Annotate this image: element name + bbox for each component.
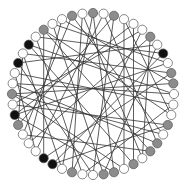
node-ring [7,8,178,179]
graph-node-black [24,40,33,49]
graph-node-white [159,130,168,139]
graph-node-gray [7,89,16,98]
graph-node-white [18,130,27,139]
graph-edge [12,94,163,135]
graph-node-white [153,40,162,49]
graph-node-gray [146,32,155,41]
graph-edge [72,14,82,173]
graph-node-gray [167,68,176,77]
graph-node-gray [67,11,76,20]
graph-node-white [167,110,176,119]
graph-node-gray [99,170,108,179]
graph-node-white [169,100,178,109]
graph-node-white [138,154,147,163]
graph-node-white [78,170,87,179]
circular-network-graph [0,0,186,187]
graph-node-white [57,164,66,173]
graph-node-black [159,49,168,58]
graph-node-white [18,49,27,58]
graph-node-gray [39,25,48,34]
graph-node-white [138,25,147,34]
graph-node-white [129,19,138,28]
graph-node-black [39,154,48,163]
graph-edge [15,63,168,115]
graph-node-gray [109,168,118,177]
graph-node-white [57,15,66,24]
graph-node-gray [14,120,23,129]
graph-edge [23,54,62,169]
graph-node-gray [67,168,76,177]
graph-node-white [24,139,33,148]
graph-node-gray [109,11,118,20]
graph-node-white [8,100,17,109]
graph-node-white [48,19,57,28]
graph-node-gray [146,147,155,156]
graph-node-white [8,79,17,88]
graph-node-gray [129,160,138,169]
graph-node-black [10,110,19,119]
graph-node-gray [88,8,97,17]
graph-node-white [99,9,108,18]
graph-node-gray [153,139,162,148]
graph-node-white [31,32,40,41]
graph-node-white [10,68,19,77]
graph-node-white [78,9,87,18]
graph-node-white [119,164,128,173]
graph-node-white [163,58,172,67]
graph-node-white [169,89,178,98]
graph-node-gray [163,120,172,129]
graph-node-white [88,170,97,179]
graph-node-black [48,160,57,169]
graph-node-white [119,15,128,24]
graph-node-black [14,58,23,67]
graph-node-gray [169,79,178,88]
graph-node-white [31,147,40,156]
